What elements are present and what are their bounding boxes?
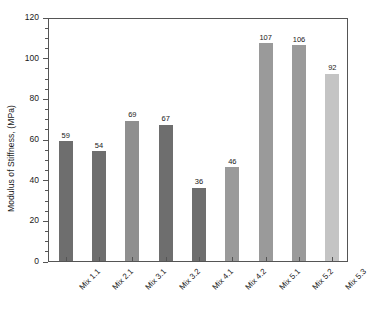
bar (225, 167, 239, 261)
bar (92, 151, 106, 261)
bar-group: 69 (125, 111, 139, 261)
bar-value-label: 54 (95, 142, 103, 150)
bar-group: 106 (292, 36, 306, 261)
tick-mark (45, 241, 48, 242)
bar-group: 59 (59, 132, 73, 261)
bar (159, 125, 173, 261)
bar (192, 188, 206, 261)
x-axis-tick-label: Mix 4.1 (211, 267, 236, 292)
tick-mark (45, 190, 48, 191)
tick-mark (45, 48, 48, 49)
tick-mark (45, 150, 48, 151)
tick-mark (45, 231, 48, 232)
y-axis-tick-label: 120 (25, 12, 39, 22)
tick-mark (45, 68, 48, 69)
tick-mark (45, 211, 48, 212)
x-axis-tick (132, 257, 133, 261)
x-axis-tick-label: Mix 5.2 (311, 267, 336, 292)
x-axis-tick (99, 257, 100, 261)
tick-mark (43, 221, 48, 222)
bar-value-label: 59 (61, 132, 69, 140)
bar-value-label: 69 (128, 111, 136, 119)
bar (325, 74, 339, 261)
tick-mark (45, 251, 48, 252)
tick-mark (43, 18, 48, 19)
bar-value-label: 106 (293, 36, 306, 44)
x-axis-tick-label: Mix 3.1 (144, 267, 169, 292)
bar-group: 54 (92, 142, 106, 261)
x-axis-tick-label: Mix 1.1 (77, 267, 102, 292)
tick-mark (43, 140, 48, 141)
tick-mark (45, 129, 48, 130)
x-axis-tick-label: Mix 4.2 (244, 267, 269, 292)
x-axis-tick (199, 257, 200, 261)
bar-value-label: 67 (161, 115, 169, 123)
bar-chart-figure: Modulus of Stiffness, (MPa) 595469673646… (0, 0, 380, 317)
x-axis-tick (299, 257, 300, 261)
y-axis-tick-label: 40 (30, 175, 39, 185)
y-axis-tick-label: 20 (30, 215, 39, 225)
bar (125, 121, 139, 261)
tick-mark (45, 119, 48, 120)
tick-mark (43, 58, 48, 59)
bar (292, 45, 306, 261)
x-axis-tick (166, 257, 167, 261)
tick-mark (43, 99, 48, 100)
bar (259, 43, 273, 261)
x-axis-tick (232, 257, 233, 261)
y-axis-title: Modulus of Stiffness, (MPa) (0, 0, 22, 317)
x-axis-tick (66, 257, 67, 261)
y-axis-tick-label: 80 (30, 93, 39, 103)
tick-mark (45, 28, 48, 29)
bar-group: 36 (192, 178, 206, 261)
tick-mark (45, 79, 48, 80)
x-axis-tick-label: Mix 5.3 (344, 267, 369, 292)
bar-group: 92 (325, 64, 339, 261)
tick-mark (45, 38, 48, 39)
tick-mark (43, 180, 48, 181)
tick-mark (45, 160, 48, 161)
x-axis-tick-label: Mix 2.1 (111, 267, 136, 292)
tick-mark (45, 109, 48, 110)
bar (59, 141, 73, 261)
bar-group: 67 (159, 115, 173, 261)
bar-group: 107 (259, 34, 273, 261)
plot-area: 59546967364610710692 (48, 18, 348, 262)
y-axis-tick-label: 60 (30, 134, 39, 144)
x-axis-tick-label: Mix 3.2 (177, 267, 202, 292)
tick-mark (45, 201, 48, 202)
tick-mark (45, 170, 48, 171)
tick-mark (43, 262, 48, 263)
y-axis-tick-label: 0 (34, 256, 39, 266)
bar-group: 46 (225, 158, 239, 261)
bar-value-label: 46 (228, 158, 236, 166)
x-axis-tick (332, 257, 333, 261)
bar-value-label: 107 (259, 34, 272, 42)
bar-value-label: 36 (195, 178, 203, 186)
tick-mark (45, 89, 48, 90)
y-axis-tick-label: 100 (25, 53, 39, 63)
bar-value-label: 92 (328, 64, 336, 72)
x-axis-tick (266, 257, 267, 261)
x-axis-tick-label: Mix 5.1 (277, 267, 302, 292)
